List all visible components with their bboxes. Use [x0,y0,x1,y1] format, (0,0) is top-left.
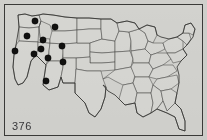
map-dot [38,46,44,52]
map-dot [45,55,51,61]
map-dot [43,78,49,84]
united-states-map [5,5,202,135]
map-dot [60,59,66,65]
figure-number-label: 376 [12,121,32,132]
map-dot [31,51,37,57]
map-dot [12,48,18,54]
map-dot [52,24,58,30]
map-dot [32,18,38,24]
map-dot [40,37,46,43]
map-dot [24,33,30,39]
figure-container: 376 [0,0,207,140]
map-dot [59,43,65,49]
map-canvas [5,5,202,135]
